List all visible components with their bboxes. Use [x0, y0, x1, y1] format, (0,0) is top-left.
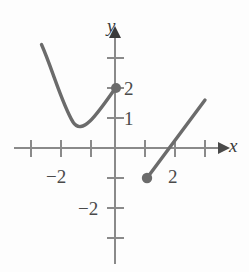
y-axis-label: y — [107, 16, 115, 35]
y-tick-label-1: 1 — [124, 109, 134, 128]
y-tick-label-2: 2 — [124, 79, 134, 98]
point-marker-0-2 — [111, 83, 121, 93]
graph-figure: y x 2 1 −2 −2 2 — [0, 0, 249, 272]
x-tick-label-2: 2 — [168, 167, 178, 186]
x-tick-label-negative-2: −2 — [46, 167, 66, 186]
x-axis-label: x — [229, 136, 237, 155]
point-marker-1-neg1 — [142, 173, 152, 183]
y-tick-label-negative-2: −2 — [78, 199, 98, 218]
coordinate-plot — [0, 0, 249, 272]
parabola-branch-curve — [42, 45, 116, 127]
